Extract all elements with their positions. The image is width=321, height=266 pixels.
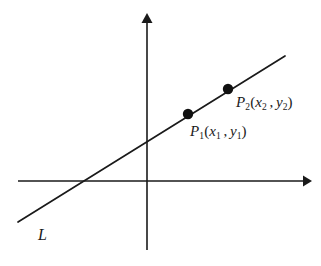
p2-base: P <box>236 94 245 110</box>
p2-x-subscript: 2 <box>262 101 267 112</box>
y-axis <box>142 13 153 250</box>
p1-y-var: y <box>230 123 237 139</box>
x-axis <box>18 176 312 187</box>
x-axis-arrowhead-icon <box>303 176 312 187</box>
p1-close-paren: ) <box>242 123 247 139</box>
diagram-svg <box>0 0 321 266</box>
figure-canvas: P1(x1,y1) P2(x2,y2) L <box>0 0 321 266</box>
p2-x-var: x <box>255 94 262 110</box>
p1-comma: , <box>224 123 228 139</box>
point-p1-label: P1(x1,y1) <box>190 124 247 140</box>
p2-close-paren: ) <box>288 94 293 110</box>
p1-x-var: x <box>209 123 216 139</box>
p2-comma: , <box>270 94 274 110</box>
point-p2-dot <box>223 84 233 94</box>
point-p2-label: P2(x2,y2) <box>236 95 293 111</box>
y-axis-arrowhead-icon <box>142 13 153 23</box>
line-label: L <box>38 227 47 243</box>
p1-base: P <box>190 123 199 139</box>
p1-x-subscript: 1 <box>216 130 221 141</box>
point-p1-dot <box>183 109 193 119</box>
p2-y-var: y <box>276 94 283 110</box>
